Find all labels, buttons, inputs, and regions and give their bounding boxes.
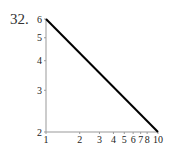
x-tick-label: 5: [122, 134, 127, 145]
data-line: [46, 19, 158, 132]
x-tick-label: 2: [77, 134, 82, 145]
log-log-chart: 123456781023456: [0, 0, 172, 153]
y-tick-label: 4: [37, 55, 42, 66]
y-tick-label: 3: [37, 85, 42, 96]
y-tick-label: 6: [37, 14, 42, 25]
x-tick-label: 6: [131, 134, 136, 145]
x-tick-label: 8: [145, 134, 150, 145]
tick-labels: 123456781023456: [37, 14, 163, 146]
y-tick-label: 2: [37, 127, 42, 138]
x-tick-label: 10: [153, 134, 163, 145]
x-tick-label: 3: [97, 134, 102, 145]
x-tick-label: 1: [44, 134, 49, 145]
x-tick-label: 7: [138, 134, 143, 145]
plot-series: [46, 19, 158, 132]
x-tick-label: 4: [111, 134, 116, 145]
y-tick-label: 5: [37, 32, 42, 43]
